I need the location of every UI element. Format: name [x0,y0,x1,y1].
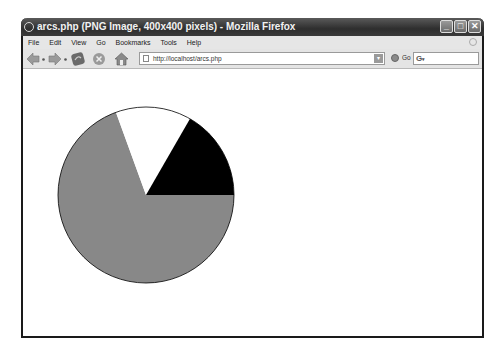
title-bar[interactable]: arcs.php (PNG Image, 400x400 pixels) - M… [21,18,484,36]
search-bar[interactable]: G▾ [413,52,479,65]
go-button[interactable]: Go [402,53,411,63]
maximize-button[interactable]: □ [454,20,467,33]
search-engine-icon[interactable]: G▾ [416,54,425,64]
minimize-button[interactable]: _ [440,20,453,33]
home-icon[interactable] [114,52,129,66]
window-title: arcs.php (PNG Image, 400x400 pixels) - M… [37,21,295,32]
menu-bar: File Edit View Go Bookmarks Tools Help [23,36,482,49]
firefox-icon [24,22,34,32]
url-dropdown-icon[interactable]: ▾ [374,54,383,63]
go-icon[interactable] [391,54,399,62]
menu-file[interactable]: File [28,36,39,49]
reload-icon[interactable] [71,52,85,66]
browser-window: arcs.php (PNG Image, 400x400 pixels) - M… [21,18,484,338]
forward-dropdown-icon[interactable] [63,57,68,62]
navigation-toolbar: http://localhost/arcs.php ▾ Go G▾ [23,49,482,69]
window-controls: _ □ ✕ [440,20,481,33]
page-icon [143,55,149,62]
menu-go[interactable]: Go [96,36,105,49]
back-dropdown-icon[interactable] [41,57,46,62]
page-content [23,69,482,336]
back-icon[interactable] [26,52,40,66]
pie-chart-image [23,69,482,336]
forward-icon[interactable] [48,52,62,66]
menu-tools[interactable]: Tools [161,36,177,49]
url-bar[interactable]: http://localhost/arcs.php ▾ [139,52,385,65]
menu-view[interactable]: View [71,36,86,49]
throbber-icon [469,38,477,46]
url-text: http://localhost/arcs.php [153,55,222,62]
menu-edit[interactable]: Edit [49,36,61,49]
close-button[interactable]: ✕ [468,20,481,33]
menu-help[interactable]: Help [187,36,201,49]
menu-bookmarks[interactable]: Bookmarks [116,36,151,49]
stop-icon[interactable] [92,52,106,66]
